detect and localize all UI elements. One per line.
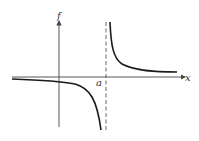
curve-right-branch <box>110 22 177 72</box>
function-graph: f x a <box>0 0 199 141</box>
y-axis-label: f <box>56 10 63 21</box>
asymptote-label: a <box>96 77 102 88</box>
curve-left-branch <box>12 79 101 130</box>
x-axis-label: x <box>185 72 191 83</box>
